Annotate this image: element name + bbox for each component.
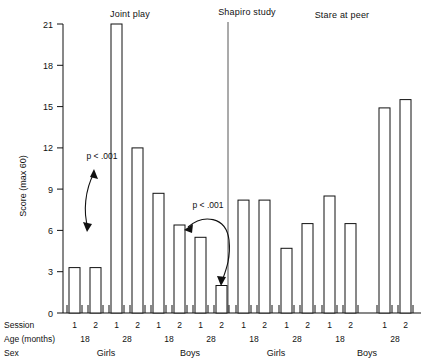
session-label-9: 1 xyxy=(241,320,246,330)
bar-girls-28-s2-stare-at-peer xyxy=(302,224,313,313)
ytick-label-6: 6 xyxy=(48,226,53,236)
row-header-sex: Sex xyxy=(4,348,19,358)
bar-boys-28-s1-stare-at-peer xyxy=(379,108,390,313)
row-header-age: Age (months) xyxy=(4,334,55,344)
ytick-label-0: 0 xyxy=(48,309,53,319)
age-label-8: 28 xyxy=(390,334,400,344)
session-label-14: 2 xyxy=(348,320,353,330)
ytick-label-18: 18 xyxy=(43,61,53,71)
row-header-session: Session xyxy=(4,320,35,330)
bar-girls-18-s2-joint-play xyxy=(90,268,101,313)
session-label-11: 1 xyxy=(284,320,289,330)
session-label-row: 1 2 1 2 1 2 1 2 1 2 1 2 1 2 1 2 xyxy=(72,320,408,330)
age-label-row: 18 28 18 28 18 28 18 28 xyxy=(80,334,400,344)
session-label-4: 2 xyxy=(135,320,140,330)
session-label-16: 2 xyxy=(403,320,408,330)
bar-girls-28-s2-joint-play xyxy=(132,148,143,313)
session-label-13: 1 xyxy=(327,320,332,330)
age-label-5: 18 xyxy=(249,334,259,344)
bar-boys-18-s1-stare-at-peer xyxy=(324,196,335,313)
chart-svg: Joint play Shapiro study Stare at peer 2… xyxy=(0,0,435,361)
age-label-1: 18 xyxy=(80,334,90,344)
annotation-p-value-2: p < .001 xyxy=(184,200,229,286)
bar-series xyxy=(69,24,411,313)
sex-label-2: Boys xyxy=(180,348,201,358)
sex-label-3: Girls xyxy=(267,348,286,358)
bar-girls-28-s1-stare-at-peer xyxy=(281,248,292,313)
bar-boys-18-s2-stare-at-peer xyxy=(345,224,356,313)
ytick-label-21: 21 xyxy=(43,20,53,30)
session-label-12: 2 xyxy=(305,320,310,330)
bar-girls-18-s2-stare-at-peer xyxy=(259,200,270,313)
annotation-2-text: p < .001 xyxy=(193,200,224,210)
sex-label-1: Girls xyxy=(97,348,116,358)
age-label-2: 28 xyxy=(122,334,132,344)
session-label-15: 1 xyxy=(382,320,387,330)
ytick-label-9: 9 xyxy=(48,185,53,195)
sex-label-row: Girls Boys Girls Boys xyxy=(97,348,378,358)
age-label-4: 28 xyxy=(206,334,216,344)
bar-girls-18-s1-stare-at-peer xyxy=(238,200,249,313)
bar-boys-28-s2-joint-play xyxy=(216,286,227,314)
ytick-label-3: 3 xyxy=(48,267,53,277)
session-label-1: 1 xyxy=(72,320,77,330)
ytick-label-12: 12 xyxy=(43,143,53,153)
sex-label-4: Boys xyxy=(357,348,378,358)
session-label-5: 1 xyxy=(156,320,161,330)
bar-girls-28-s1-joint-play xyxy=(111,24,122,313)
age-label-7: 18 xyxy=(335,334,345,344)
session-label-10: 2 xyxy=(262,320,267,330)
panel-title-joint-play: Joint play xyxy=(110,9,150,19)
session-label-2: 2 xyxy=(93,320,98,330)
panel-title-stare-at-peer: Stare at peer xyxy=(315,10,370,20)
age-label-6: 28 xyxy=(292,334,302,344)
bar-boys-18-s1-joint-play xyxy=(153,193,164,313)
session-label-6: 2 xyxy=(177,320,182,330)
bar-boys-28-s1-joint-play xyxy=(195,237,206,313)
age-label-3: 18 xyxy=(164,334,174,344)
annotation-1-text: p < .001 xyxy=(87,151,118,161)
ytick-label-15: 15 xyxy=(43,102,53,112)
y-axis-ticks xyxy=(57,24,63,313)
bar-girls-18-s1-joint-play xyxy=(69,268,80,313)
session-label-7: 1 xyxy=(198,320,203,330)
bar-boys-18-s2-joint-play xyxy=(174,225,185,313)
session-label-8: 2 xyxy=(219,320,224,330)
y-axis-title: Score (max 60) xyxy=(18,155,28,217)
bar-boys-28-s2-stare-at-peer xyxy=(400,100,411,313)
chart-figure: Joint play Shapiro study Stare at peer 2… xyxy=(0,0,435,361)
panel-title-shapiro-study: Shapiro study xyxy=(218,7,276,17)
session-label-3: 1 xyxy=(114,320,119,330)
